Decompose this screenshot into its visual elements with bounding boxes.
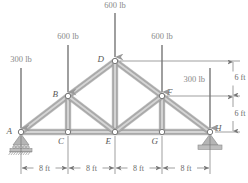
truss-diagram-canvas: ABCDEFGH 300 lb600 lb600 lb600 lb300 lb … — [0, 0, 248, 183]
load-label: 600 lb — [151, 31, 173, 41]
load-at-F: 600 lb — [151, 31, 173, 92]
dim-span-h-2: 8 ft — [116, 164, 161, 173]
load-at-B: 600 lb — [57, 31, 79, 92]
truss-diagram-figure: ABCDEFGH 300 lb600 lb600 lb600 lb300 lb … — [0, 0, 248, 183]
truss-member-A-B — [21, 96, 68, 132]
dim-label-v-1: 6 ft — [235, 109, 247, 118]
load-label: 600 lb — [104, 0, 126, 10]
dim-label-h-3: 8 ft — [181, 164, 193, 173]
joint-label-B: B — [53, 89, 59, 99]
load-at-A: 300 lb — [10, 54, 32, 128]
dim-span-v-1: 6 ft — [233, 97, 246, 131]
dim-span-h-1: 8 ft — [69, 164, 114, 173]
dim-span-h-3: 8 ft — [163, 164, 209, 173]
load-label: 300 lb — [10, 54, 32, 64]
dim-label-v-0: 6 ft — [235, 73, 247, 82]
support-left-roller — [9, 134, 32, 155]
truss-members — [21, 61, 210, 132]
truss-member-F-H — [162, 96, 210, 132]
dim-label-h-2: 8 ft — [133, 164, 145, 173]
dim-span-v-0: 6 ft — [233, 62, 246, 95]
load-label: 600 lb — [57, 31, 79, 41]
load-label: 300 lb — [184, 74, 206, 84]
truss-member-E-F — [115, 96, 162, 132]
joint-label-H: H — [214, 123, 222, 133]
load-at-D: 600 lb — [104, 0, 126, 57]
dim-label-h-1: 8 ft — [86, 164, 98, 173]
truss-member-B-E — [68, 96, 115, 132]
truss-member-D-F — [115, 61, 162, 96]
joint-label-C: C — [58, 136, 65, 146]
dim-span-h-0: 8 ft — [22, 164, 67, 173]
joint-label-D: D — [97, 54, 105, 64]
truss-member-B-D — [68, 61, 115, 96]
joint-label-E: E — [105, 136, 112, 146]
joint-label-A: A — [6, 126, 13, 136]
joint-label-F: F — [166, 87, 173, 97]
joint-label-G: G — [152, 136, 159, 146]
dim-label-h-0: 8 ft — [39, 164, 51, 173]
